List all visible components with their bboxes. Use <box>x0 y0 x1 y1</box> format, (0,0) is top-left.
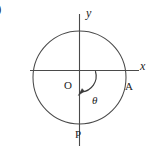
panel-label: ) <box>0 2 1 15</box>
y-axis-label: y <box>86 7 91 19</box>
point-label-p: P <box>75 129 81 140</box>
angle-label-theta: θ <box>92 95 97 106</box>
point-label-a: A <box>125 81 133 92</box>
geometry-figure: ) y x O A P θ <box>0 0 152 152</box>
point-label-origin: O <box>64 80 72 91</box>
angle-arc <box>82 72 97 93</box>
x-axis-label: x <box>140 60 145 72</box>
